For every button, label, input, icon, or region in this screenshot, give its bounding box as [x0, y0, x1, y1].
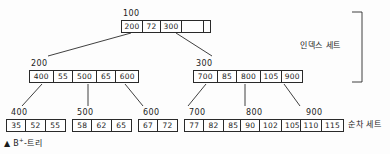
node-leaf-500-cells: 58 62 65 — [72, 119, 132, 132]
caption-triangle-icon: ▲ — [4, 139, 10, 148]
internal-200-cell-1: 55 — [54, 71, 74, 82]
node-root-100-cells: 200 72 300 — [121, 20, 211, 33]
root-cell-2: 300 — [161, 21, 182, 32]
internal-200-cell-4: 600 — [116, 71, 138, 82]
edge-200-to-400 — [22, 84, 42, 106]
leaf-900-cell-0: 110 — [301, 120, 322, 131]
leaf-400-cell-2: 55 — [46, 120, 65, 131]
leaf-800-cell-0: 90 — [241, 120, 260, 131]
leaf-500-cell-0: 58 — [73, 120, 92, 131]
internal-300-cell-2: 800 — [237, 71, 261, 82]
node-leaf-800-label: 800 — [246, 108, 262, 117]
node-internal-300-label: 300 — [196, 59, 212, 68]
node-root-100-label: 100 — [123, 9, 139, 18]
node-internal-300-cells: 700 85 800 105 900 — [193, 70, 303, 83]
leaf-400-cell-1: 52 — [26, 120, 45, 131]
sequence-set-label: 순차 세트 — [348, 120, 381, 130]
leaf-900-cell-1: 115 — [322, 120, 343, 131]
leaf-600-cell-1: 72 — [158, 120, 177, 131]
node-leaf-700-label: 700 — [189, 108, 205, 117]
node-leaf-600-label: 600 — [143, 108, 159, 117]
leaf-800-cell-1: 102 — [260, 120, 281, 131]
index-set-label: 인덱스 세트 — [300, 41, 341, 51]
node-leaf-400-cells: 35 52 55 — [6, 119, 66, 132]
root-cell-4-empty — [204, 21, 210, 32]
edge-root-to-200 — [48, 33, 131, 56]
edge-root-to-300 — [176, 33, 212, 56]
caption-tail: -트리 — [24, 139, 42, 148]
index-set-bracket — [352, 12, 362, 82]
leaf-500-cell-2: 65 — [112, 120, 131, 131]
node-leaf-800-cells: 90 102 105 — [240, 119, 304, 132]
node-leaf-900-label: 900 — [306, 108, 322, 117]
root-cell-3-empty — [182, 21, 204, 32]
leaf-700-cell-1: 82 — [204, 120, 223, 131]
node-leaf-900-cells: 110 115 — [300, 119, 344, 132]
node-leaf-700-cells: 77 82 85 — [184, 119, 244, 132]
internal-300-cell-0: 700 — [194, 71, 218, 82]
node-leaf-400-label: 400 — [11, 108, 27, 117]
internal-300-cell-4: 900 — [282, 71, 302, 82]
internal-200-cell-2: 500 — [73, 71, 97, 82]
b-plus-tree-diagram: 100 200 72 300 200 400 55 500 65 600 300… — [0, 0, 390, 154]
node-internal-200-cells: 400 55 500 65 600 — [29, 70, 139, 83]
internal-200-cell-0: 400 — [30, 71, 54, 82]
edge-300-to-900 — [284, 84, 300, 106]
leaf-400-cell-0: 35 — [7, 120, 26, 131]
root-cell-0: 200 — [122, 21, 143, 32]
leaf-600-cell-0: 67 — [139, 120, 158, 131]
node-internal-200-label: 200 — [31, 59, 47, 68]
root-cell-1: 72 — [143, 21, 161, 32]
internal-200-cell-3: 65 — [97, 71, 117, 82]
leaf-500-cell-1: 62 — [92, 120, 111, 131]
leaf-700-cell-0: 77 — [185, 120, 204, 131]
node-leaf-500-label: 500 — [77, 108, 93, 117]
edge-300-to-700 — [188, 84, 206, 106]
internal-300-cell-1: 85 — [218, 71, 238, 82]
internal-300-cell-3: 105 — [261, 71, 283, 82]
node-leaf-600-cells: 67 72 — [138, 119, 178, 132]
figure-caption: ▲ B+-트리 — [4, 138, 42, 149]
edge-200-to-600 — [125, 84, 143, 106]
